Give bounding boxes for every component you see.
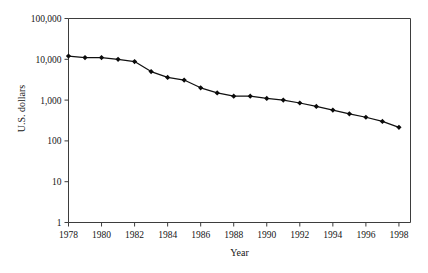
x-tick-label: 1984 [158, 230, 177, 240]
data-point-marker [198, 85, 203, 90]
series-line [69, 56, 399, 127]
data-point-marker [99, 55, 104, 60]
data-point-marker [215, 90, 220, 95]
y-tick-label: 1 [57, 218, 62, 228]
data-point-marker [264, 96, 269, 101]
x-tick-label: 1988 [224, 230, 243, 240]
data-point-marker [396, 125, 401, 130]
y-tick-label: 10 [52, 177, 62, 187]
y-tick-label: 100,000 [31, 14, 62, 24]
y-tick-label: 1,000 [40, 96, 62, 106]
x-tick-label: 1982 [125, 230, 144, 240]
data-point-marker [314, 104, 319, 109]
chart-figure: 100,00010,0001,0001001011978198019821984… [0, 0, 428, 273]
data-point-marker [330, 107, 335, 112]
x-tick-label: 1980 [92, 230, 111, 240]
x-tick-label: 1978 [59, 230, 78, 240]
x-tick-label: 1998 [389, 230, 408, 240]
data-point-marker [182, 77, 187, 82]
y-tick-label: 10,000 [35, 55, 61, 65]
y-axis-title: U.S. dollars [16, 85, 27, 133]
x-tick-label: 1992 [290, 230, 309, 240]
data-point-marker [149, 69, 154, 74]
data-point-marker [165, 75, 170, 80]
data-point-marker [66, 53, 71, 58]
data-point-marker [132, 59, 137, 64]
line-chart: 100,00010,0001,0001001011978198019821984… [0, 0, 428, 273]
x-axis-title: Year [230, 247, 249, 258]
data-point-marker [115, 57, 120, 62]
x-tick-label: 1986 [191, 230, 210, 240]
data-point-marker [347, 111, 352, 116]
data-point-marker [363, 115, 368, 120]
y-tick-label: 100 [47, 136, 62, 146]
x-tick-label: 1996 [356, 230, 375, 240]
data-point-marker [231, 94, 236, 99]
plot-frame [69, 19, 411, 223]
x-tick-label: 1994 [323, 230, 342, 240]
data-point-marker [297, 100, 302, 105]
data-point-marker [82, 55, 87, 60]
data-point-marker [248, 94, 253, 99]
data-point-marker [380, 119, 385, 124]
x-tick-label: 1990 [257, 230, 276, 240]
data-point-marker [281, 98, 286, 103]
